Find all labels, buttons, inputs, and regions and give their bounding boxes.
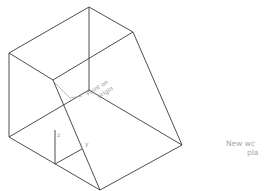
wireframe-drawing: z y Point on origin [0, 0, 265, 191]
origin-leader [54, 82, 82, 98]
ucs-axes-icon: z y [55, 130, 89, 164]
side-note-line2: pla [247, 148, 258, 157]
side-note-line1: New wc [226, 139, 255, 148]
z-axis-label: z [57, 131, 60, 138]
y-axis-label: y [85, 140, 89, 148]
wireframe-edges [9, 7, 182, 190]
